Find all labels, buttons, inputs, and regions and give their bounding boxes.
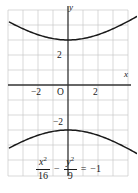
fraction-denominator-16: 16 [36,171,50,182]
x-tick-label-pos2: 2 [93,88,98,98]
fraction-denominator-9: 9 [66,171,75,182]
fraction-numerator-y: y2 [64,155,76,168]
fraction-numerator-x: x2 [37,155,49,168]
axes [8,6,131,176]
x-tick-label-neg2: −2 [31,88,41,98]
hyperbola-figure: −2 2 2 −2 O x y x2 16 − y2 9 = −1 [0,0,137,193]
y-tick-label-neg2: −2 [53,118,63,128]
x-axis-label: x [124,70,128,79]
fraction-y-squared-over-9: y2 9 [64,155,77,181]
y-tick-label-pos2: 2 [57,51,62,61]
right-hand-side-value: −1 [89,163,102,174]
exponent-2-y: 2 [71,155,74,162]
equation-caption: x2 16 − y2 9 = −1 [0,155,137,181]
upper-branch [10,16,138,40]
lower-branch [10,130,138,154]
equals-sign: = [80,163,88,174]
fraction-x-squared-over-16: x2 16 [36,155,50,181]
y-axis-label: y [69,3,73,12]
minus-operator: − [53,163,61,174]
origin-label: O [57,88,64,98]
exponent-2-x: 2 [44,155,47,162]
